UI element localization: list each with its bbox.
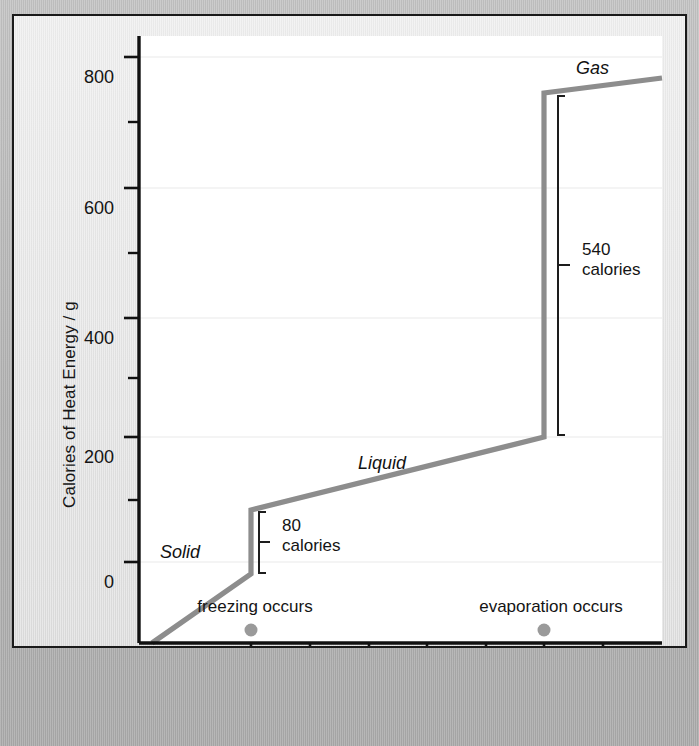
y-tick-label-600: 600 [48,198,114,219]
y-tick-label-400: 400 [48,328,114,349]
fusion-annotation: 80 calories [282,516,341,555]
vaporization-annotation-value: 540 [582,240,641,260]
phase-label-solid: Solid [160,542,200,563]
vaporization-annotation-unit: calories [582,260,641,280]
evaporation-marker-dot [538,624,551,637]
phase-label-gas: Gas [576,58,609,79]
y-tick-label-0: 0 [48,572,114,593]
fusion-annotation-unit: calories [282,536,341,556]
fusion-annotation-value: 80 [282,516,341,536]
heating-curve-plot [14,16,685,646]
plot-area-background [139,36,662,643]
chart-panel: 800 600 400 200 0 0 20 40 60 80 100 120 … [12,14,687,648]
phase-label-liquid: Liquid [358,453,406,474]
vaporization-annotation: 540 calories [582,240,641,279]
event-label-freezing: freezing occurs [197,597,312,617]
y-axis-title: Calories of Heat Energy / g [60,301,80,508]
y-tick-label-200: 200 [48,447,114,468]
y-axis-major-ticks [124,57,139,562]
freezing-marker-dot [245,624,258,637]
event-label-evaporation: evaporation occurs [479,597,623,617]
figure-root: 800 600 400 200 0 0 20 40 60 80 100 120 … [0,0,699,746]
y-tick-label-800: 800 [48,67,114,88]
